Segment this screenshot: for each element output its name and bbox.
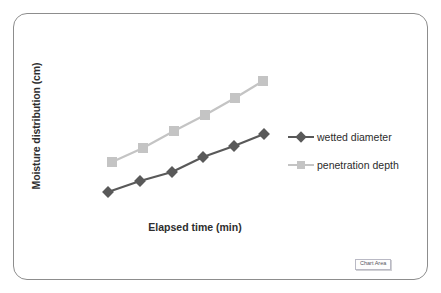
series-penetration-depth[interactable]	[107, 76, 268, 167]
legend-marker-diamond-icon	[288, 130, 314, 144]
series-line[interactable]	[108, 134, 264, 192]
data-point-marker[interactable]	[102, 186, 114, 198]
series-line[interactable]	[112, 81, 263, 162]
data-point-marker[interactable]	[258, 76, 268, 86]
data-point-marker[interactable]	[200, 110, 210, 120]
legend-item[interactable]: penetration depth	[288, 154, 433, 176]
legend-label: wetted diameter	[317, 131, 392, 143]
data-point-marker[interactable]	[169, 126, 179, 136]
data-point-marker[interactable]	[138, 143, 148, 153]
chart-plot-area[interactable]: Moisture distribution (cm) Elapsed time …	[0, 0, 441, 293]
data-point-marker[interactable]	[228, 140, 240, 152]
legend-label: penetration depth	[317, 159, 399, 171]
data-point-marker[interactable]	[107, 157, 117, 167]
data-point-marker[interactable]	[230, 93, 240, 103]
data-point-marker[interactable]	[134, 175, 146, 187]
legend-item[interactable]: wetted diameter	[288, 126, 433, 148]
legend-marker	[297, 161, 305, 169]
chart-legend[interactable]: wetted diameterpenetration depth	[288, 126, 433, 182]
data-point-marker[interactable]	[258, 128, 270, 140]
legend-marker	[295, 131, 306, 142]
chart-area-tooltip: Chart Area	[355, 259, 391, 270]
series-wetted-diameter[interactable]	[102, 128, 270, 198]
series-groups	[102, 76, 270, 198]
data-point-marker[interactable]	[197, 151, 209, 163]
legend-marker-square-icon	[288, 158, 314, 172]
data-point-marker[interactable]	[166, 166, 178, 178]
